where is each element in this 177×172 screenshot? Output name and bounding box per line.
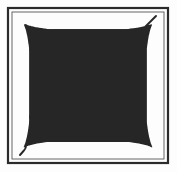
woven-strand-path bbox=[20, 16, 156, 155]
lattice-figure bbox=[0, 0, 177, 172]
lattice-canvas bbox=[0, 0, 177, 172]
woven-strand-group bbox=[20, 16, 156, 155]
